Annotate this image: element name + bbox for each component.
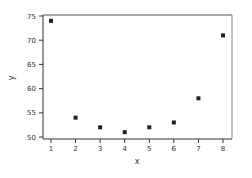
data-point [196,96,200,100]
data-point [98,125,102,129]
y-tick-label: 60 [27,85,36,93]
data-point [221,33,225,37]
data-points [49,19,225,134]
x-tick-label: 1 [49,145,53,153]
y-tick-label: 70 [27,37,36,45]
x-tick-label: 5 [147,145,151,153]
scatter-chart: 505560657075 12345678 x y [0,0,252,178]
plot-frame [43,15,232,139]
y-tick-label: 75 [27,13,36,21]
data-point [123,130,127,134]
data-point [172,120,176,124]
x-tick-label: 6 [172,145,177,153]
x-tick-label: 3 [98,145,102,153]
y-tick-label: 55 [27,109,36,117]
x-tick-label: 8 [221,145,225,153]
data-point [49,19,53,23]
y-axis: 505560657075 [27,13,43,142]
y-axis-label: y [7,75,16,80]
data-point [147,125,151,129]
x-tick-label: 2 [73,145,77,153]
x-tick-label: 7 [196,145,200,153]
y-tick-label: 65 [27,61,36,69]
x-axis-label: x [135,157,140,166]
x-tick-label: 4 [122,145,127,153]
data-point [74,116,78,120]
y-tick-label: 50 [27,134,36,142]
x-axis: 12345678 [49,139,225,153]
